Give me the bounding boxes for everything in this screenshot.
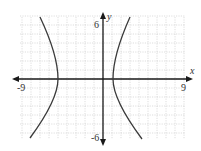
y-min-tick-label: -6 bbox=[91, 132, 99, 143]
y-axis-label: y bbox=[106, 11, 112, 22]
hyperbola-graph: x y -9 9 6 -6 bbox=[0, 0, 201, 151]
y-max-tick-label: 6 bbox=[94, 19, 99, 30]
y-axis-down-arrow-icon bbox=[100, 139, 106, 146]
hyperbola-right-branch bbox=[113, 17, 142, 139]
hyperbola-left-branch bbox=[30, 17, 58, 138]
x-axis-right-arrow-icon bbox=[186, 76, 193, 82]
y-axis-up-arrow-icon bbox=[100, 12, 106, 19]
x-max-tick-label: 9 bbox=[181, 82, 186, 93]
x-axis-label: x bbox=[189, 65, 195, 76]
x-min-tick-label: -9 bbox=[17, 82, 25, 93]
